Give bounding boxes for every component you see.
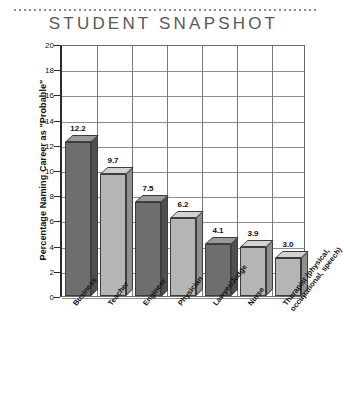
- bar: [65, 142, 91, 296]
- y-tick-label: 20: [28, 41, 54, 50]
- y-tick-label: 0: [28, 293, 54, 302]
- y-tick-label: 10: [28, 167, 54, 176]
- bars-layer: 12.29.77.56.24.13.93.0: [62, 46, 304, 296]
- bar-value-label: 7.5: [131, 184, 165, 193]
- y-tick-label: 18: [28, 66, 54, 75]
- bar-value-label: 4.1: [201, 226, 235, 235]
- bar-value-label: 3.0: [271, 240, 305, 249]
- y-tick-label: 14: [28, 116, 54, 125]
- y-tick-label: 8: [28, 192, 54, 201]
- y-tick-label: 2: [28, 267, 54, 276]
- y-tick-label: 16: [28, 91, 54, 100]
- bar-value-label: 3.9: [236, 229, 270, 238]
- y-tick-label: 6: [28, 217, 54, 226]
- chart-title: STUDENT SNAPSHOT: [0, 14, 327, 34]
- bar-value-label: 6.2: [166, 200, 200, 209]
- bar-value-label: 12.2: [61, 124, 95, 133]
- bar-front-face: [65, 142, 91, 296]
- title-dotted-rule: [14, 9, 318, 11]
- bar-value-label: 9.7: [96, 156, 130, 165]
- y-tick-mark: [54, 297, 60, 298]
- y-tick-label: 12: [28, 141, 54, 150]
- bar-front-face: [100, 174, 126, 296]
- y-tick-label: 4: [28, 242, 54, 251]
- plot-area: 12.29.77.56.24.13.93.0: [60, 45, 305, 297]
- bar: [100, 174, 126, 296]
